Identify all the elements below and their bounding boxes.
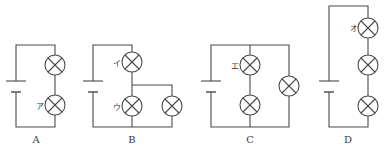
battery-icon xyxy=(201,81,221,92)
lamp-icon xyxy=(358,55,378,75)
battery-icon xyxy=(319,81,339,92)
lamp-icon xyxy=(162,96,182,116)
circuit-caption-c: C xyxy=(246,134,254,145)
circuit-caption-d: D xyxy=(344,134,352,145)
circuit-caption-a: A xyxy=(31,134,40,145)
lamp-icon xyxy=(45,55,65,75)
circuit-a: ア A xyxy=(6,45,65,145)
lamp-icon xyxy=(45,95,65,115)
wire xyxy=(132,85,172,96)
circuit-b: イ ウ B xyxy=(83,45,182,145)
lamp-icon xyxy=(240,55,260,75)
circuit-c: エ C xyxy=(201,45,299,145)
circuit-diagrams: ア A イ ウ B xyxy=(0,0,387,151)
lamp-icon xyxy=(279,76,299,96)
lamp-label-u: ウ xyxy=(113,103,121,112)
lamp-label-a: ア xyxy=(36,102,44,111)
lamp-label-i: イ xyxy=(113,59,121,68)
lamp-icon xyxy=(240,95,260,115)
lamp-icon xyxy=(122,96,142,116)
circuit-d: オ D xyxy=(319,6,378,145)
lamp-label-e: エ xyxy=(231,62,239,71)
battery-icon xyxy=(6,81,26,92)
lamp-icon xyxy=(358,96,378,116)
battery-icon xyxy=(83,81,103,92)
circuit-caption-b: B xyxy=(128,134,135,145)
lamp-icon xyxy=(122,52,142,72)
lamp-icon xyxy=(358,18,378,38)
lamp-label-o: オ xyxy=(350,24,358,33)
